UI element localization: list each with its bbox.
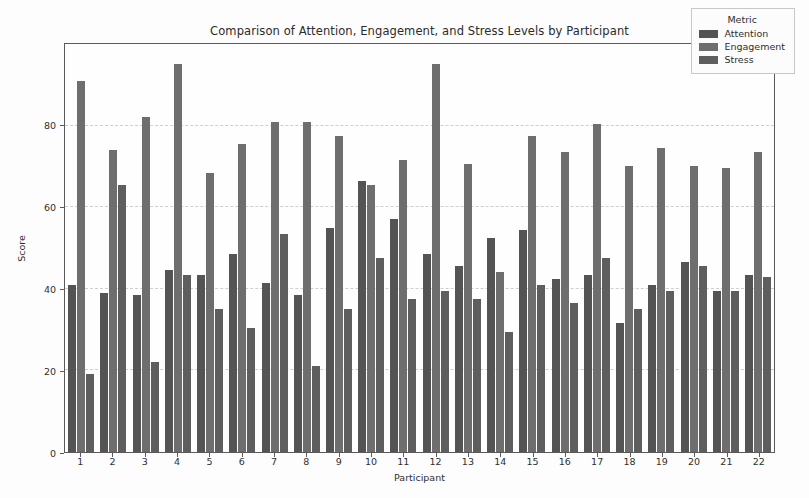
bar-engagement-3[interactable]	[142, 117, 150, 452]
x-tick-label-9: 9	[323, 456, 355, 467]
legend-title: Metric	[699, 14, 785, 25]
bar-group	[323, 44, 355, 452]
x-tick-label-17: 17	[581, 456, 613, 467]
bar-stress-17[interactable]	[602, 258, 610, 452]
bar-attention-18[interactable]	[616, 323, 624, 452]
bar-stress-18[interactable]	[634, 309, 642, 452]
bar-attention-1[interactable]	[68, 285, 76, 452]
bar-stress-14[interactable]	[505, 332, 513, 452]
bars-layer	[65, 44, 774, 452]
y-tick-mark	[60, 207, 64, 208]
legend-item-engagement[interactable]: Engagement	[699, 41, 785, 52]
bar-engagement-19[interactable]	[657, 148, 665, 452]
bar-engagement-10[interactable]	[367, 185, 375, 452]
y-axis-label: Score	[14, 43, 28, 453]
bar-engagement-2[interactable]	[109, 150, 117, 452]
bar-group	[677, 44, 709, 452]
bar-engagement-20[interactable]	[690, 166, 698, 452]
x-tick-label-8: 8	[290, 456, 322, 467]
x-axis-label: Participant	[64, 472, 775, 483]
bar-attention-10[interactable]	[358, 181, 366, 452]
x-tick-label-4: 4	[161, 456, 193, 467]
bar-attention-7[interactable]	[262, 283, 270, 452]
bar-engagement-12[interactable]	[432, 64, 440, 452]
legend-swatch-stress	[699, 56, 718, 64]
bar-attention-6[interactable]	[229, 254, 237, 452]
bar-stress-13[interactable]	[473, 299, 481, 452]
bar-group	[291, 44, 323, 452]
x-axis-tick-labels: 12345678910111213141516171819202122	[64, 456, 775, 467]
bar-group	[613, 44, 645, 452]
bar-attention-11[interactable]	[390, 219, 398, 452]
bar-stress-11[interactable]	[408, 299, 416, 452]
chart-figure: Comparison of Attention, Engagement, and…	[0, 0, 809, 498]
bar-attention-5[interactable]	[197, 275, 205, 452]
bar-engagement-14[interactable]	[496, 272, 504, 452]
bar-engagement-9[interactable]	[335, 136, 343, 452]
bar-engagement-1[interactable]	[77, 81, 85, 452]
bar-engagement-8[interactable]	[303, 122, 311, 452]
bar-engagement-13[interactable]	[464, 164, 472, 452]
bar-group	[484, 44, 516, 452]
y-tick-label: 20	[34, 366, 56, 377]
legend-item-stress[interactable]: Stress	[699, 54, 785, 65]
bar-stress-21[interactable]	[731, 291, 739, 452]
bar-attention-3[interactable]	[133, 295, 141, 452]
bar-stress-22[interactable]	[763, 277, 771, 452]
bar-engagement-4[interactable]	[174, 64, 182, 452]
bar-engagement-16[interactable]	[561, 152, 569, 452]
bar-stress-7[interactable]	[280, 234, 288, 452]
bar-engagement-17[interactable]	[593, 124, 601, 452]
bar-stress-19[interactable]	[666, 291, 674, 452]
bar-attention-15[interactable]	[519, 230, 527, 452]
bar-engagement-18[interactable]	[625, 166, 633, 452]
legend-item-attention[interactable]: Attention	[699, 28, 785, 39]
bar-engagement-15[interactable]	[528, 136, 536, 452]
x-tick-label-5: 5	[193, 456, 225, 467]
bar-attention-16[interactable]	[552, 279, 560, 452]
y-tick-label: 80	[34, 120, 56, 131]
bar-stress-8[interactable]	[312, 366, 320, 452]
bar-group	[258, 44, 290, 452]
bar-attention-8[interactable]	[294, 295, 302, 452]
bar-group	[581, 44, 613, 452]
x-tick-label-11: 11	[387, 456, 419, 467]
bar-attention-2[interactable]	[100, 293, 108, 452]
x-tick-label-18: 18	[613, 456, 645, 467]
bar-attention-17[interactable]	[584, 275, 592, 452]
bar-stress-12[interactable]	[441, 291, 449, 452]
bar-group	[194, 44, 226, 452]
bar-group	[65, 44, 97, 452]
bar-stress-5[interactable]	[215, 309, 223, 452]
bar-stress-9[interactable]	[344, 309, 352, 452]
bar-engagement-7[interactable]	[271, 122, 279, 452]
bar-attention-9[interactable]	[326, 228, 334, 452]
bar-group	[129, 44, 161, 452]
bar-group	[452, 44, 484, 452]
bar-stress-3[interactable]	[151, 362, 159, 452]
bar-attention-21[interactable]	[713, 291, 721, 452]
bar-engagement-22[interactable]	[754, 152, 762, 452]
bar-stress-10[interactable]	[376, 258, 384, 452]
x-tick-label-7: 7	[258, 456, 290, 467]
bar-attention-20[interactable]	[681, 262, 689, 452]
bar-attention-13[interactable]	[455, 266, 463, 452]
bar-engagement-11[interactable]	[399, 160, 407, 452]
bar-attention-14[interactable]	[487, 238, 495, 452]
bar-stress-20[interactable]	[699, 266, 707, 452]
bar-engagement-21[interactable]	[722, 168, 730, 452]
bar-engagement-5[interactable]	[206, 173, 214, 452]
bar-attention-4[interactable]	[165, 270, 173, 452]
bar-stress-4[interactable]	[183, 275, 191, 452]
bar-attention-12[interactable]	[423, 254, 431, 452]
bar-attention-22[interactable]	[745, 275, 753, 452]
bar-engagement-6[interactable]	[238, 144, 246, 452]
bar-stress-6[interactable]	[247, 328, 255, 452]
bar-stress-1[interactable]	[86, 374, 94, 452]
bar-attention-19[interactable]	[648, 285, 656, 452]
x-tick-label-19: 19	[646, 456, 678, 467]
bar-stress-16[interactable]	[570, 303, 578, 452]
bar-stress-2[interactable]	[118, 185, 126, 452]
plot-area	[64, 43, 775, 453]
bar-stress-15[interactable]	[537, 285, 545, 452]
